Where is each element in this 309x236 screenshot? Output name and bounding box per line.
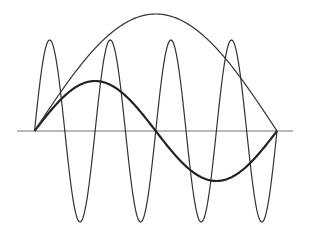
wave-diagram	[0, 0, 309, 236]
half-wave-arc	[35, 14, 278, 131]
